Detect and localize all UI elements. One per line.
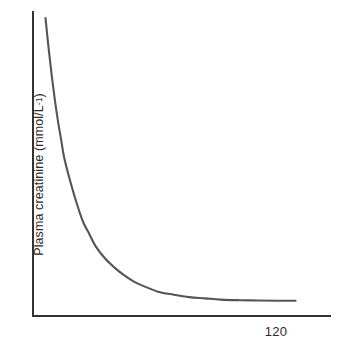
chart-figure: Plasma creatinine (mmol/L-1) 120 (0, 0, 338, 349)
plot-area (0, 0, 338, 349)
x-tick-label-120: 120 (246, 324, 306, 339)
creatinine-decay-curve (46, 18, 296, 301)
